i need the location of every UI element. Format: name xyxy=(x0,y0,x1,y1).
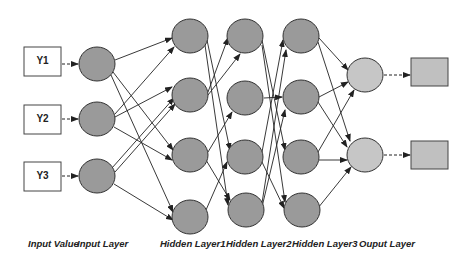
output-node-1 xyxy=(347,58,383,92)
label-hidden-layer3: Hidden Layer3 xyxy=(292,238,357,249)
label-input-layer: Input Layer xyxy=(77,238,128,249)
input-label-y3: Y3 xyxy=(24,170,61,181)
hidden3-node-4 xyxy=(284,193,320,227)
hidden1-node-3 xyxy=(172,138,208,172)
output-node-2 xyxy=(347,138,383,172)
neural-network-diagram xyxy=(0,0,469,258)
connections xyxy=(111,38,354,220)
hidden1-node-4 xyxy=(172,200,208,234)
input-node-1 xyxy=(79,47,115,81)
output-box-2 xyxy=(411,141,448,169)
input-label-y1: Y1 xyxy=(24,55,61,66)
hidden2-node-1 xyxy=(227,19,263,53)
input-node-2 xyxy=(79,102,115,136)
hidden3-node-1 xyxy=(283,19,319,53)
hidden1-node-1 xyxy=(172,19,208,53)
hidden1-node-2 xyxy=(172,78,208,112)
label-hidden-layer2: Hidden Layer2 xyxy=(226,238,291,249)
output-box-1 xyxy=(411,58,448,86)
hidden2-node-3 xyxy=(227,140,263,174)
input-label-y2: Y2 xyxy=(24,113,61,124)
hidden3-node-2 xyxy=(283,80,319,114)
hidden3-node-3 xyxy=(283,140,319,174)
hidden2-node-2 xyxy=(227,81,263,115)
label-input-value: Input Value xyxy=(28,238,79,249)
label-hidden-layer1: Hidden Layer1 xyxy=(160,238,225,249)
label-output-layer: Ouput Layer xyxy=(359,238,415,249)
hidden2-node-4 xyxy=(228,193,264,227)
input-node-3 xyxy=(79,159,115,193)
